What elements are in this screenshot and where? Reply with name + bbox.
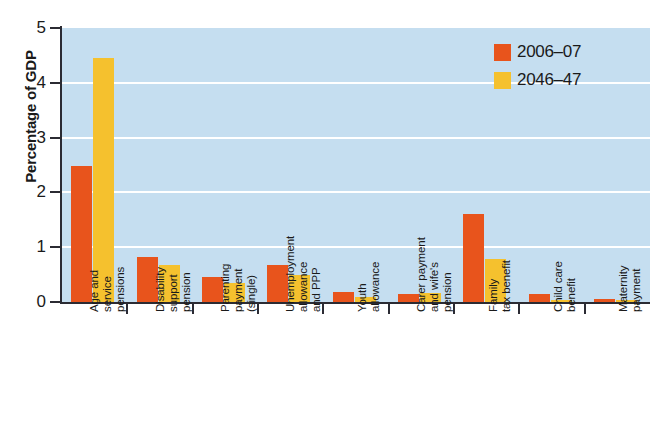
x-category-label-line: tax benefit xyxy=(500,260,513,312)
x-category-label-line: and wife's xyxy=(428,262,441,312)
x-category-label-line: Disability xyxy=(154,267,167,312)
y-tick-label: 1 xyxy=(6,238,46,255)
x-category-label-line: (single) xyxy=(245,275,258,312)
gridline xyxy=(62,246,650,248)
x-tick-mark xyxy=(322,304,324,314)
x-tick-mark xyxy=(518,304,520,314)
x-category-label-line: service xyxy=(101,276,114,312)
x-category-label-line: Parenting xyxy=(219,264,232,312)
y-tick-label: 0 xyxy=(6,293,46,310)
y-tick-mark xyxy=(50,82,61,84)
bar-chart-figure: Percentage of GDP 012345 Age andservicep… xyxy=(0,0,667,426)
x-category-label-line: Carer payment xyxy=(415,237,428,312)
y-axis-line xyxy=(60,26,62,304)
y-tick-mark xyxy=(50,27,61,29)
x-category-label-line: payment xyxy=(630,269,643,312)
y-tick-label: 5 xyxy=(6,19,46,36)
legend-swatch xyxy=(494,44,511,61)
x-tick-mark xyxy=(126,304,128,314)
x-category-label-line: pensions xyxy=(114,267,127,312)
x-category-label-line: pension xyxy=(180,272,193,312)
x-tick-mark xyxy=(388,304,390,314)
y-tick-label: 4 xyxy=(6,74,46,91)
x-category-label-line: benefit xyxy=(565,278,578,312)
x-category-label-line: Family xyxy=(487,279,500,312)
y-tick-label: 3 xyxy=(6,129,46,146)
bar xyxy=(93,58,114,302)
bar xyxy=(529,294,550,302)
legend-label: 2046–47 xyxy=(517,70,581,90)
x-category-label-line: support xyxy=(167,274,180,312)
bar xyxy=(594,299,615,302)
x-category-label-line: Child care xyxy=(552,261,565,312)
y-tick-mark xyxy=(50,301,61,303)
gridline xyxy=(62,191,650,193)
x-category-label-line: allowance xyxy=(297,262,310,312)
x-category-label-line: and PPP xyxy=(310,267,323,312)
y-tick-mark xyxy=(50,191,61,193)
x-category-label-line: pension xyxy=(441,272,454,312)
x-category-label-line: payment xyxy=(232,269,245,312)
x-category-label-line: Maternity xyxy=(617,266,630,312)
x-category-label-line: Youth xyxy=(356,284,369,313)
x-category-label-line: Unemployment xyxy=(284,236,297,312)
bar xyxy=(463,214,484,302)
y-tick-mark xyxy=(50,246,61,248)
y-tick-mark xyxy=(50,137,61,139)
legend-item[interactable]: 2046–47 xyxy=(494,66,581,94)
x-category-label-line: allowance xyxy=(369,262,382,312)
chart-legend: 2006–072046–47 xyxy=(494,38,581,94)
legend-swatch xyxy=(494,72,511,89)
bar xyxy=(333,292,354,302)
y-tick-label: 2 xyxy=(6,183,46,200)
gridline xyxy=(62,137,650,139)
x-category-label-line: Age and xyxy=(88,270,101,312)
legend-label: 2006–07 xyxy=(517,42,581,62)
legend-item[interactable]: 2006–07 xyxy=(494,38,581,66)
x-tick-mark xyxy=(584,304,586,314)
